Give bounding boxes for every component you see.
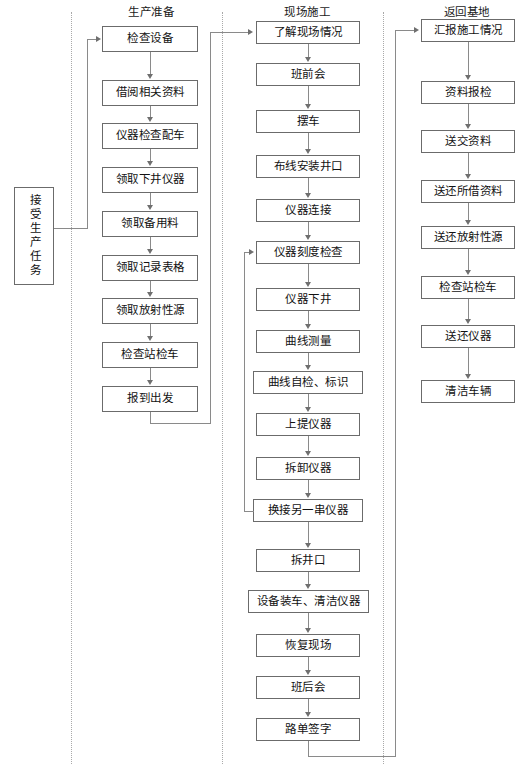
connector-sc16-down	[308, 741, 309, 756]
arrowhead-pp-1-2	[147, 117, 153, 122]
node-sc-0[interactable]: 了解现场情况	[256, 21, 360, 44]
node-sc-9[interactable]: 上提仪器	[256, 413, 360, 436]
arrowhead-pp-6-7	[147, 336, 153, 341]
arrowhead-rb-0-1	[465, 75, 471, 80]
arrowhead-rb-2-3	[465, 174, 471, 179]
arrowhead-sc-10-11	[305, 493, 311, 498]
arrowhead-pp-5-6	[147, 292, 153, 297]
connector-sc-15-16	[308, 699, 309, 712]
arrowhead-sc-4-5	[305, 235, 311, 240]
connector-rb-6-7	[468, 348, 469, 374]
column-divider-2	[222, 12, 223, 764]
arrowhead-pp-2-3	[147, 161, 153, 166]
arrowhead-sc-1-2	[305, 104, 311, 109]
node-rb-6[interactable]: 送还仪器	[421, 325, 515, 348]
connector-sc-9-10	[308, 436, 309, 451]
node-pp-8[interactable]: 报到出发	[102, 386, 198, 412]
connector-rb-5-6	[468, 299, 469, 319]
arrowhead-sc-7-8	[305, 365, 311, 370]
node-sc-7[interactable]: 曲线测量	[256, 330, 360, 353]
arrowhead-pp-3-4	[147, 205, 153, 210]
node-rb-5[interactable]: 检查站检车	[421, 276, 515, 299]
connector-sc-6-7	[308, 311, 309, 324]
node-sc-4[interactable]: 仪器连接	[256, 199, 360, 222]
connector-sc-2-3	[308, 133, 309, 149]
connector-entry-right	[54, 228, 87, 229]
node-sc-1[interactable]: 班前会	[256, 63, 360, 86]
column-title-site-construction: 现场施工	[252, 3, 362, 19]
node-pp-2[interactable]: 仪器检查配车	[102, 123, 198, 149]
node-sc-11[interactable]: 换接另一串仪器	[253, 499, 363, 522]
node-sc-6[interactable]: 仪器下井	[256, 288, 360, 311]
connector-sc-11-12	[308, 522, 309, 543]
node-rb-2[interactable]: 送交资料	[421, 130, 515, 153]
arrowhead-sc-3-4	[305, 193, 311, 198]
node-rb-0[interactable]: 汇报施工情况	[421, 19, 515, 42]
arrowhead-rb-4-5	[465, 270, 471, 275]
connector-rb-1-2	[468, 104, 469, 124]
node-sc-10[interactable]: 拆卸仪器	[256, 457, 360, 480]
connector-pp8-down	[150, 412, 151, 423]
connector-rb-3-4	[468, 203, 469, 220]
connector-pp8-up	[210, 32, 211, 423]
node-sc-8[interactable]: 曲线自检、标识	[253, 371, 363, 394]
arrowhead-sc-11-12	[305, 543, 311, 548]
node-rb-4[interactable]: 送还放射性源	[421, 226, 515, 249]
connector-pp8-right	[150, 423, 211, 424]
connector-sc-1-2	[308, 86, 309, 104]
arrowhead-pp-7-8	[147, 380, 153, 385]
node-pp-1[interactable]: 借阅相关资料	[102, 80, 198, 106]
column-divider-3	[383, 12, 384, 764]
column-title-production-preparation: 生产准备	[96, 3, 206, 19]
node-pp-4[interactable]: 领取备用料	[102, 211, 198, 237]
node-sc-13[interactable]: 设备装车、清洁仪器	[248, 590, 369, 613]
connector-sc-4-5	[308, 222, 309, 235]
column-title-return-to-base: 返回基地	[414, 3, 519, 19]
node-entry-accept-production-task[interactable]: 接受生产任务	[14, 187, 54, 285]
connector-rb-2-3	[468, 153, 469, 174]
arrowhead-sc-13-14	[305, 628, 311, 633]
connector-sc-5-6	[308, 264, 309, 282]
node-pp-3[interactable]: 领取下井仪器	[102, 167, 198, 193]
arrowhead-feedback-into-sc5	[249, 249, 254, 255]
flowchart-canvas: 生产准备 现场施工 返回基地 接受生产任务 检查设备 借阅相关资料 仪器检查配车…	[0, 0, 527, 771]
arrowhead-sc-6-7	[305, 324, 311, 329]
arrowhead-entry-into-pp0	[96, 36, 101, 42]
connector-sc16-into-rb0	[395, 30, 415, 31]
arrowhead-sc-8-9	[305, 407, 311, 412]
node-sc-14[interactable]: 恢复现场	[256, 634, 360, 657]
arrowhead-sc-0-1	[305, 57, 311, 62]
arrowhead-sc-9-10	[305, 451, 311, 456]
node-sc-2[interactable]: 摆车	[256, 110, 360, 133]
node-rb-7[interactable]: 清洁车辆	[421, 380, 515, 403]
arrowhead-sc-2-3	[305, 149, 311, 154]
node-sc-3[interactable]: 布线安装井口	[256, 155, 360, 178]
connector-sc-12-13	[308, 572, 309, 584]
node-pp-7[interactable]: 检查站检车	[102, 342, 198, 368]
connector-sc-0-1	[308, 44, 309, 57]
node-pp-6[interactable]: 领取放射性源	[102, 298, 198, 324]
connector-sc-10-11	[308, 480, 309, 493]
node-pp-0[interactable]: 检查设备	[102, 26, 198, 52]
node-sc-16[interactable]: 路单签字	[256, 718, 360, 741]
arrowhead-sc-12-13	[305, 584, 311, 589]
connector-sc16-right	[308, 756, 396, 757]
arrowhead-pp-4-5	[147, 249, 153, 254]
arrowhead-rb-6-7	[465, 374, 471, 379]
connector-rb-4-5	[468, 249, 469, 270]
node-rb-3[interactable]: 送还所借资料	[421, 180, 515, 203]
node-sc-15[interactable]: 班后会	[256, 676, 360, 699]
node-rb-1[interactable]: 资料报检	[421, 81, 515, 104]
connector-feedback-left	[244, 511, 254, 512]
node-sc-12[interactable]: 拆井口	[256, 549, 360, 572]
arrowhead-sc-15-16	[305, 712, 311, 717]
connector-feedback-up	[244, 252, 245, 511]
node-pp-5[interactable]: 领取记录表格	[102, 255, 198, 281]
arrowhead-rb-5-6	[465, 319, 471, 324]
arrowhead-rb-3-4	[465, 220, 471, 225]
connector-rb-0-1	[468, 42, 469, 75]
connector-pp8-into-sc0	[210, 32, 249, 33]
arrowhead-rb-1-2	[465, 124, 471, 129]
node-sc-5[interactable]: 仪器刻度检查	[256, 241, 360, 264]
column-divider-1	[71, 12, 72, 764]
